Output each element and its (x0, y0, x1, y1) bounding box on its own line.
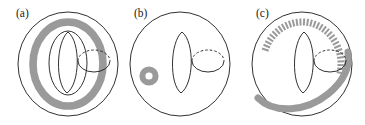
panel-c-hatch-tick (264, 45, 270, 48)
panel-b-graphic: (b) (122, 0, 240, 125)
panel-c-hatch-tick (267, 38, 273, 42)
panel-c-hatch-tick (307, 19, 308, 26)
panel-c-hole-circle-visible (314, 61, 346, 72)
panel-c-hatch-tick (293, 20, 295, 27)
panel-c-hatch-tick (313, 21, 315, 28)
panel-c-hatch-tick (316, 22, 319, 28)
panel-a-meridian-right (67, 32, 77, 93)
panel-b-small-annulus (142, 69, 155, 82)
panel-c-hatch-tick (262, 49, 269, 51)
panel-c-hatch-tick (333, 42, 339, 45)
panel-c-hatch-tick (322, 26, 326, 32)
panel-c-hatch-tick (337, 57, 344, 58)
figure-root: (a) (b) (0, 0, 365, 125)
panel-c-meridian-left (294, 32, 304, 93)
panel-b-meridian-right (181, 32, 191, 93)
panel-c-hatch-tick (319, 24, 323, 30)
panel-a-gray-band (33, 22, 103, 106)
panel-b-outer-boundary (130, 12, 230, 116)
panel-a-inner-boundary (49, 31, 87, 95)
panel-c-label: (c) (256, 7, 269, 20)
panel-c: (c) (240, 0, 365, 125)
panel-c-hatch-tick (324, 29, 329, 34)
panel-c-hatch-tick (331, 38, 337, 42)
panel-c-hatch-tick (310, 20, 312, 27)
panel-c-solid-band (258, 52, 348, 109)
panel-b-hole-circle-visible (192, 61, 224, 72)
panel-c-hatch-tick (265, 41, 271, 44)
panel-a-graphic: (a) (0, 0, 122, 125)
panel-c-hole-circle-hidden (314, 50, 346, 61)
panel-c-hatch-tick (282, 24, 286, 30)
panel-c-hatch-tick (289, 21, 291, 28)
panel-c-outer-boundary (252, 12, 352, 116)
panel-c-hatch-tick (334, 45, 340, 48)
panel-c-hatch-tick (327, 32, 332, 37)
panel-c-hatched-band (262, 19, 344, 74)
panel-b-label: (b) (134, 7, 148, 20)
panel-c-meridian-right (303, 32, 313, 93)
panel-c-graphic: (c) (240, 0, 365, 125)
panel-b: (b) (122, 0, 240, 125)
panel-a-label: (a) (16, 7, 29, 20)
panel-a: (a) (0, 0, 122, 125)
panel-c-hatch-tick (285, 22, 288, 28)
panel-b-meridian-left (172, 32, 182, 93)
panel-c-hatch-tick (278, 26, 282, 32)
panel-a-meridian-left (58, 32, 68, 93)
panel-c-hatch-tick (275, 29, 280, 34)
panel-b-hole-circle-hidden (192, 50, 224, 61)
panel-c-hatch-tick (272, 31, 277, 36)
panel-c-hatch-tick (329, 35, 335, 39)
panel-c-hatch-tick (296, 19, 297, 26)
panel-c-hatch-tick (270, 34, 275, 38)
